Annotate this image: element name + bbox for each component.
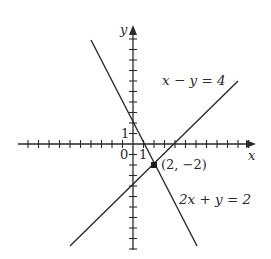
x-axis-arrow-icon <box>246 140 256 148</box>
equation-label-2x-plus-y: 2x + y = 2 <box>179 193 251 207</box>
y-axis-arrow-icon <box>129 25 137 35</box>
intersection-point <box>151 162 157 168</box>
origin-label: 0 <box>120 148 128 161</box>
y-axis-label: y <box>120 23 127 36</box>
line-2x-plus-y-eq-2 <box>91 40 197 246</box>
coordinate-plane-diagram: y x 1 0 1 (2, −2) x − y = 4 2x + y = 2 <box>0 0 271 259</box>
y-unit-label: 1 <box>121 127 129 140</box>
x-axis-label: x <box>248 149 255 162</box>
graph-canvas <box>0 0 271 259</box>
equation-label-x-minus-y: x − y = 4 <box>162 74 226 88</box>
intersection-label: (2, −2) <box>161 158 207 171</box>
x-unit-label: 1 <box>139 148 147 161</box>
